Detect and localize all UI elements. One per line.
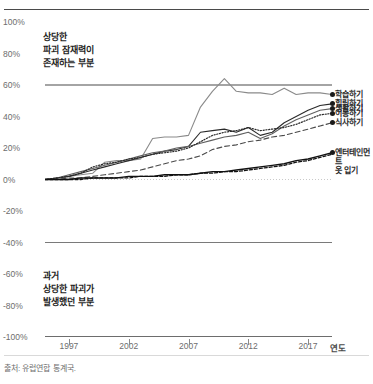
annotation-bottom: 과거 상당한 파괴가 발생했던 부분 (43, 270, 94, 309)
source-note: 출처: 유럽연합 통계국. (4, 362, 76, 373)
series-line-힐링하기 (45, 104, 332, 180)
x-tick-mark (189, 339, 190, 345)
legend-item-label[interactable]: 이동하기 (335, 109, 363, 118)
annotation-top: 상당한 파괴 잠재력이 존재하는 부분 (43, 31, 94, 70)
page-title (0, 0, 373, 6)
y-tick-label: 100% (0, 17, 40, 27)
y-tick-label: 0% (0, 175, 40, 185)
title-divider (4, 9, 369, 10)
series-line-엔터테인먼트-옷-입기 (45, 153, 332, 180)
series-line-엔터테인먼트-dash (45, 154, 332, 179)
chart-container: 100%80%60%40%20%0%-20%-40%-60%-80%-100% … (0, 0, 373, 384)
y-tick-label: -80% (0, 301, 40, 311)
x-tick-mark (248, 339, 249, 345)
y-tick-label: 60% (0, 80, 40, 90)
x-tick-mark (129, 339, 130, 345)
y-tick-label: -60% (0, 269, 40, 279)
x-tick-mark (308, 339, 309, 345)
y-tick-label: -100% (0, 332, 40, 342)
footer-divider (4, 355, 369, 356)
y-tick-label: 20% (0, 143, 40, 153)
x-axis-title: 연도 (330, 341, 346, 353)
legend-item-label[interactable]: 엔터테인먼트 옷 입기 (335, 148, 373, 176)
y-tick-label: 40% (0, 112, 40, 122)
y-tick-label: 80% (0, 49, 40, 59)
y-tick-label: -20% (0, 206, 40, 216)
legend-item-label[interactable]: 학습하기 (335, 90, 363, 99)
legend-item-label[interactable]: 식사하기 (335, 118, 363, 127)
y-tick-label: -40% (0, 238, 40, 248)
x-tick-mark (69, 339, 70, 345)
